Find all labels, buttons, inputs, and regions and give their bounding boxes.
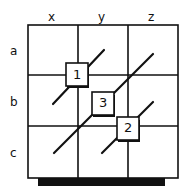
- column-label-y: y: [98, 11, 105, 23]
- row-label-a: a: [10, 45, 17, 57]
- base-shadow-bar: [38, 178, 165, 186]
- column-label-z: z: [148, 11, 154, 23]
- box-2-label: 2: [124, 122, 132, 134]
- column-label-x: x: [48, 11, 55, 23]
- row-label-b: b: [10, 96, 18, 108]
- box-1-label: 1: [73, 69, 81, 81]
- grid-diagram: [0, 0, 188, 196]
- box-3-label: 3: [99, 97, 107, 109]
- row-label-c: c: [10, 147, 17, 159]
